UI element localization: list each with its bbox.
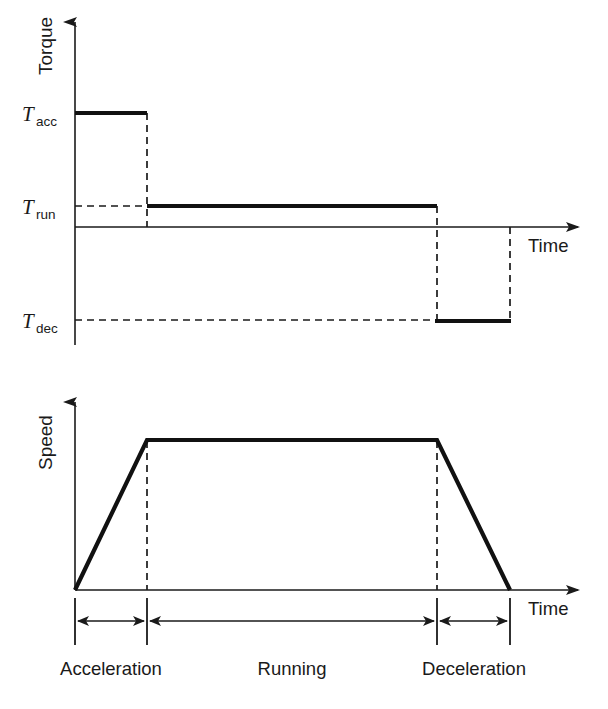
torque-run-subscript: run: [36, 207, 56, 222]
phase-label-running: Running: [258, 658, 327, 679]
torque-y-axis-label: Torque: [35, 17, 56, 75]
torque-chart: Torque Time T acc T run T dec: [22, 17, 578, 345]
phase-label-deceleration: Deceleration: [422, 658, 526, 679]
torque-acc-symbol: T: [22, 102, 35, 126]
torque-dec-subscript: dec: [36, 321, 58, 336]
torque-dec-symbol: T: [22, 309, 35, 333]
diagram-canvas: Torque Time T acc T run T dec: [0, 0, 608, 709]
speed-x-axis-label: Time: [528, 598, 568, 619]
phase-label-acceleration: Acceleration: [60, 658, 162, 679]
speed-y-axis-label: Speed: [35, 415, 56, 470]
speed-chart: Speed Time: [35, 402, 578, 619]
speed-trapezoid-curve: [75, 440, 510, 590]
torque-x-axis-label: Time: [528, 235, 568, 256]
torque-level-label-dec: T dec: [22, 309, 58, 336]
torque-level-label-acc: T acc: [22, 102, 57, 129]
phase-dimension-band: Acceleration Running Deceleration: [60, 598, 526, 679]
motion-profile-figure: Torque Time T acc T run T dec: [0, 0, 608, 709]
torque-level-label-run: T run: [22, 195, 56, 222]
torque-run-symbol: T: [22, 195, 35, 219]
torque-acc-subscript: acc: [36, 114, 57, 129]
